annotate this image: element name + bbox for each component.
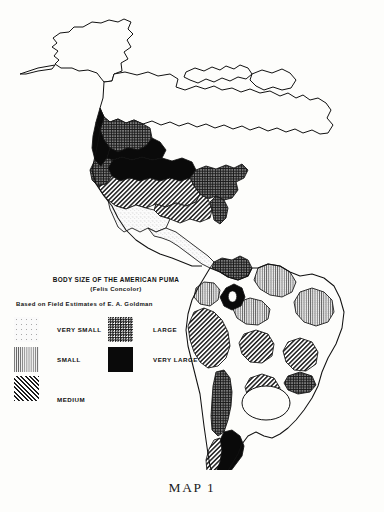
region-venezuela-guiana [254, 264, 296, 297]
legend-title: BODY SIZE OF THE AMERICAN PUMA [18, 276, 214, 284]
region-southeast-brazil [283, 338, 318, 371]
legend-label-large: LARGE [153, 326, 177, 333]
legend-item-small: SMALL [14, 347, 81, 372]
legend-item-very-large: VERY LARGE [108, 347, 198, 372]
legend-swatch-very-small [14, 317, 39, 342]
legend-label-very-large: VERY LARGE [153, 356, 198, 363]
region-uruguay-strip [284, 372, 316, 394]
legend-item-very-small: VERY SMALL [14, 317, 102, 342]
legend-swatch-medium [14, 376, 39, 401]
legend-subtitle: (Felis Concolor) [18, 286, 214, 294]
region-andes-ring-core [228, 291, 236, 302]
map-page: BODY SIZE OF THE AMERICAN PUMA (Felis Co… [0, 0, 384, 512]
region-pampas-enclave [242, 386, 290, 420]
region-chile-andes [211, 370, 232, 436]
legend-block: BODY SIZE OF THE AMERICAN PUMA (Felis Co… [14, 276, 214, 407]
region-mato-grosso [239, 330, 274, 363]
legend-items: VERY SMALL SMALL MEDIUM LARGE VERY LARGE [14, 317, 214, 407]
legend-label-very-small: VERY SMALL [57, 326, 102, 333]
region-aleutians [20, 65, 55, 74]
legend-swatch-large [108, 317, 133, 342]
legend-label-medium: MEDIUM [57, 396, 85, 403]
legend-swatch-very-large [108, 347, 133, 372]
region-arctic-islands [184, 65, 252, 83]
legend-label-small: SMALL [57, 356, 81, 363]
map-caption: MAP 1 [0, 480, 384, 496]
region-central-plains-us [108, 157, 196, 181]
legend-source: Based on Field Estimates of E. A. Goldma… [14, 301, 214, 309]
legend-swatch-small [14, 347, 39, 372]
legend-item-medium: MEDIUM [14, 376, 85, 401]
region-baffin [250, 69, 296, 90]
region-northeast-brazil [294, 288, 334, 326]
region-florida-spur [210, 196, 228, 224]
legend-item-large: LARGE [108, 317, 177, 342]
